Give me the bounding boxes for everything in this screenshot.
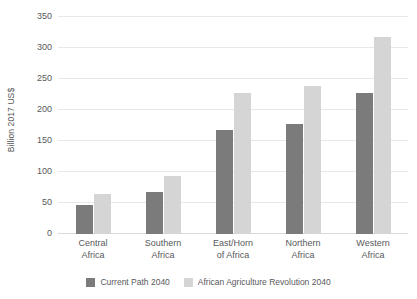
x-axis-label: CentralAfrica — [58, 238, 128, 261]
y-axis-title-label: Billion 2017 US$ — [6, 88, 16, 152]
y-tick-label: 50 — [42, 197, 52, 207]
bar[interactable] — [164, 176, 181, 234]
bar-groups — [58, 17, 408, 234]
bar-chart: Billion 2017 US$ 050100150200250300350 C… — [0, 0, 417, 299]
x-axis-label: East/Hornof Africa — [198, 238, 268, 261]
bar[interactable] — [146, 192, 163, 234]
bar[interactable] — [374, 37, 391, 234]
x-axis-label: WesternAfrica — [338, 238, 408, 261]
x-axis-label: NorthernAfrica — [268, 238, 338, 261]
y-tick-label: 150 — [37, 135, 52, 145]
bar-group — [58, 17, 128, 234]
x-axis-labels: CentralAfricaSouthernAfricaEast/Hornof A… — [58, 238, 408, 261]
y-tick-label: 250 — [37, 73, 52, 83]
bar[interactable] — [234, 93, 251, 234]
bar[interactable] — [94, 194, 111, 234]
bar-group — [338, 17, 408, 234]
x-axis-label: SouthernAfrica — [128, 238, 198, 261]
plot-area: 050100150200250300350 — [58, 17, 408, 234]
bar[interactable] — [286, 124, 303, 234]
bar[interactable] — [356, 93, 373, 234]
bar[interactable] — [76, 205, 93, 234]
legend-swatch — [86, 278, 95, 287]
bar-group — [268, 17, 338, 234]
bar[interactable] — [216, 130, 233, 234]
bar[interactable] — [304, 86, 321, 234]
legend-swatch — [184, 278, 193, 287]
legend-label: African Agriculture Revolution 2040 — [198, 277, 331, 287]
y-tick-label: 300 — [37, 42, 52, 52]
chart-legend: Current Path 2040African Agriculture Rev… — [0, 277, 417, 287]
legend-label: Current Path 2040 — [100, 277, 169, 287]
y-tick-label: 100 — [37, 166, 52, 176]
y-tick-label: 200 — [37, 104, 52, 114]
legend-item[interactable]: African Agriculture Revolution 2040 — [184, 277, 331, 287]
legend-item[interactable]: Current Path 2040 — [86, 277, 169, 287]
bar-group — [128, 17, 198, 234]
bar-group — [198, 17, 268, 234]
y-tick-label: 350 — [37, 11, 52, 21]
y-axis-title: Billion 2017 US$ — [2, 0, 20, 240]
y-tick-label: 0 — [47, 228, 52, 238]
